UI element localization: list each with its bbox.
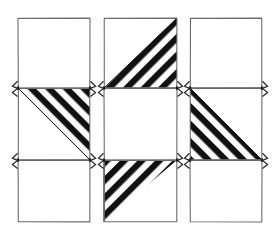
c3-panel-bottom-base bbox=[190, 160, 262, 222]
clamp-lower-icon bbox=[178, 160, 183, 168]
clamp-pin-icon bbox=[189, 86, 191, 89]
clamp-upper-icon bbox=[91, 153, 96, 160]
clamp-pin-icon bbox=[17, 86, 19, 89]
clamp-upper-icon bbox=[12, 153, 17, 160]
clamp-lower-icon bbox=[12, 160, 17, 168]
clamp-upper-icon bbox=[184, 81, 189, 88]
c1-panel-bottom[interactable] bbox=[18, 160, 90, 222]
clamp-lower-icon bbox=[98, 160, 103, 168]
c2-panel-middle[interactable] bbox=[104, 88, 177, 160]
c3-panel-top-base bbox=[190, 18, 262, 88]
c1-panel-top[interactable] bbox=[18, 18, 90, 88]
clamp-upper-icon bbox=[98, 81, 103, 88]
clamp-lower-icon bbox=[184, 88, 189, 96]
clamp-upper-icon bbox=[12, 81, 17, 88]
clamp-lower-icon bbox=[98, 88, 103, 96]
clamp-upper-icon bbox=[98, 153, 103, 160]
c1-panel-bottom-base bbox=[18, 160, 90, 222]
clamp-lower-icon bbox=[91, 88, 96, 96]
clamp-lower-icon bbox=[12, 88, 17, 96]
clamp-pin-icon bbox=[261, 86, 263, 89]
clamp-pin-icon bbox=[89, 86, 91, 89]
c1-panel-top-base bbox=[18, 18, 90, 88]
clamp-upper-icon bbox=[178, 153, 183, 160]
clamp-pin-icon bbox=[261, 158, 263, 161]
clamp-pin-icon bbox=[103, 158, 105, 161]
clamp-upper-icon bbox=[178, 81, 183, 88]
clamp-lower-icon bbox=[263, 160, 268, 168]
clamp-pin-icon bbox=[103, 86, 105, 89]
clamp-upper-icon bbox=[263, 81, 268, 88]
clamp-pin-icon bbox=[189, 158, 191, 161]
clamp-lower-icon bbox=[91, 160, 96, 168]
c3-panel-bottom[interactable] bbox=[190, 160, 262, 222]
clamp-upper-icon bbox=[91, 81, 96, 88]
clamp-pin-icon bbox=[89, 158, 91, 161]
panel-assembly-diagram bbox=[0, 0, 278, 233]
clamp-pin-icon bbox=[176, 86, 178, 89]
clamp-pin-icon bbox=[176, 158, 178, 161]
clamp-pin-icon bbox=[17, 158, 19, 161]
clamp-lower-icon bbox=[263, 88, 268, 96]
c3-panel-top[interactable] bbox=[190, 18, 262, 88]
clamp-upper-icon bbox=[263, 153, 268, 160]
clamp-lower-icon bbox=[184, 160, 189, 168]
clamp-upper-icon bbox=[184, 153, 189, 160]
figure-canvas bbox=[0, 0, 278, 233]
clamp-lower-icon bbox=[178, 88, 183, 96]
c2-panel-middle-base bbox=[104, 88, 177, 160]
